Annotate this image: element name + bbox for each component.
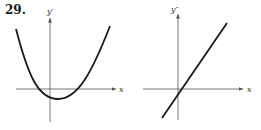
diagram-canvas: 29. y′ x y″ x bbox=[0, 0, 261, 130]
x-axis-label: x bbox=[119, 85, 124, 94]
problem-number: 29. bbox=[5, 3, 26, 17]
panel-first-derivative: y′ x bbox=[16, 7, 124, 122]
panel-second-derivative: y″ x bbox=[143, 5, 252, 120]
x-axis-label: x bbox=[247, 85, 252, 94]
parabola-curve bbox=[16, 26, 110, 99]
y-axis-label: y″ bbox=[170, 5, 179, 14]
straight-line-curve bbox=[162, 23, 227, 118]
y-axis-label: y′ bbox=[46, 7, 54, 16]
